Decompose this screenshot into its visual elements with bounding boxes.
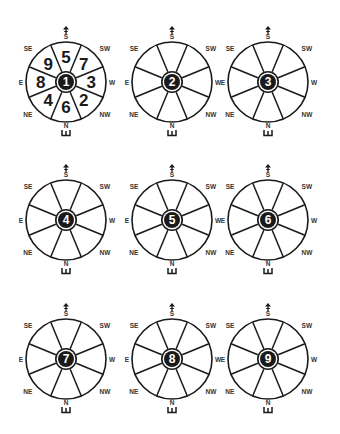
direction-label-sw: SW xyxy=(206,183,217,190)
direction-label-n: N xyxy=(170,399,175,406)
direction-label-ne: NE xyxy=(23,388,33,395)
sector-number-n: 6 xyxy=(61,98,70,117)
direction-label-w: W xyxy=(109,79,116,86)
direction-label-w: W xyxy=(109,356,116,363)
direction-label-e: E xyxy=(221,79,226,86)
direction-label-n: N xyxy=(266,399,271,406)
direction-label-s: S xyxy=(64,310,69,317)
direction-label-w: W xyxy=(311,217,318,224)
direction-label-n: N xyxy=(64,260,69,267)
comb-gate-icon xyxy=(264,130,272,136)
direction-label-ne: NE xyxy=(225,249,235,256)
direction-label-nw: NW xyxy=(302,111,314,118)
comb-gate-icon xyxy=(168,130,176,136)
direction-label-nw: NW xyxy=(206,111,218,118)
direction-label-se: SE xyxy=(226,45,235,52)
direction-label-ne: NE xyxy=(225,111,235,118)
direction-label-sw: SW xyxy=(206,322,217,329)
direction-label-se: SE xyxy=(130,45,139,52)
direction-label-e: E xyxy=(125,79,130,86)
direction-label-se: SE xyxy=(226,183,235,190)
direction-label-n: N xyxy=(266,122,271,129)
chart-1: 573264891SSWWNWNNEESE xyxy=(19,26,116,136)
chart-2: 2SSWWNWNNEESE xyxy=(125,26,222,136)
direction-label-e: E xyxy=(19,217,24,224)
direction-label-w: W xyxy=(311,356,318,363)
direction-label-s: S xyxy=(266,310,271,317)
direction-label-se: SE xyxy=(130,183,139,190)
center-number: 5 xyxy=(169,213,176,227)
direction-label-sw: SW xyxy=(302,183,313,190)
direction-label-w: W xyxy=(311,79,318,86)
direction-label-nw: NW xyxy=(302,388,314,395)
center-number: 1 xyxy=(63,75,70,89)
direction-label-sw: SW xyxy=(100,45,111,52)
chart-7: 7SSWWNWNNEESE xyxy=(19,303,116,413)
chart-5: 5SSWWNWNNEESE xyxy=(125,164,222,274)
chart-3: 3SSWWNWNNEESE xyxy=(221,26,318,136)
direction-label-ne: NE xyxy=(129,111,139,118)
comb-gate-icon xyxy=(264,407,272,413)
comb-gate-icon xyxy=(168,407,176,413)
direction-label-nw: NW xyxy=(100,111,112,118)
direction-label-sw: SW xyxy=(100,183,111,190)
center-number: 2 xyxy=(169,75,176,89)
chart-6: 6SSWWNWNNEESE xyxy=(221,164,318,274)
direction-label-n: N xyxy=(266,260,271,267)
direction-label-nw: NW xyxy=(302,249,314,256)
sector-number-se: 9 xyxy=(43,55,52,74)
direction-label-e: E xyxy=(221,217,226,224)
direction-label-nw: NW xyxy=(206,388,218,395)
comb-gate-icon xyxy=(62,130,70,136)
direction-label-nw: NW xyxy=(100,388,112,395)
chart-9: 9SSWWNWNNEESE xyxy=(221,303,318,413)
flying-star-diagram: 573264891SSWWNWNNEESE2SSWWNWNNEESE3SSWWN… xyxy=(0,0,340,434)
direction-label-s: S xyxy=(170,33,175,40)
center-number: 3 xyxy=(265,75,272,89)
direction-label-nw: NW xyxy=(100,249,112,256)
direction-label-se: SE xyxy=(24,45,33,52)
direction-label-n: N xyxy=(170,260,175,267)
comb-gate-icon xyxy=(264,268,272,274)
direction-label-e: E xyxy=(221,356,226,363)
comb-gate-icon xyxy=(62,268,70,274)
sector-number-ne: 4 xyxy=(43,91,53,110)
direction-label-n: N xyxy=(64,399,69,406)
direction-label-sw: SW xyxy=(302,45,313,52)
center-number: 8 xyxy=(169,352,176,366)
center-number: 7 xyxy=(63,352,70,366)
direction-label-ne: NE xyxy=(129,249,139,256)
direction-label-ne: NE xyxy=(225,388,235,395)
direction-label-ne: NE xyxy=(23,249,33,256)
direction-label-s: S xyxy=(170,171,175,178)
direction-label-se: SE xyxy=(130,322,139,329)
direction-label-e: E xyxy=(125,356,130,363)
direction-label-ne: NE xyxy=(129,388,139,395)
comb-gate-icon xyxy=(168,268,176,274)
direction-label-sw: SW xyxy=(100,322,111,329)
sector-number-e: 8 xyxy=(36,73,45,92)
sector-number-sw: 7 xyxy=(79,55,88,74)
direction-label-e: E xyxy=(19,356,24,363)
center-number: 9 xyxy=(265,352,272,366)
sector-number-nw: 2 xyxy=(79,91,88,110)
direction-label-n: N xyxy=(64,122,69,129)
sector-number-w: 3 xyxy=(86,73,95,92)
direction-label-se: SE xyxy=(226,322,235,329)
direction-label-s: S xyxy=(64,33,69,40)
direction-label-e: E xyxy=(125,217,130,224)
direction-label-e: E xyxy=(19,79,24,86)
direction-label-s: S xyxy=(170,310,175,317)
direction-label-s: S xyxy=(64,171,69,178)
center-number: 4 xyxy=(63,213,70,227)
center-number: 6 xyxy=(265,213,272,227)
direction-label-s: S xyxy=(266,171,271,178)
direction-label-s: S xyxy=(266,33,271,40)
direction-label-nw: NW xyxy=(206,249,218,256)
direction-label-sw: SW xyxy=(302,322,313,329)
direction-label-w: W xyxy=(109,217,116,224)
direction-label-n: N xyxy=(170,122,175,129)
direction-label-ne: NE xyxy=(23,111,33,118)
direction-label-se: SE xyxy=(24,183,33,190)
sector-number-s: 5 xyxy=(61,48,70,67)
